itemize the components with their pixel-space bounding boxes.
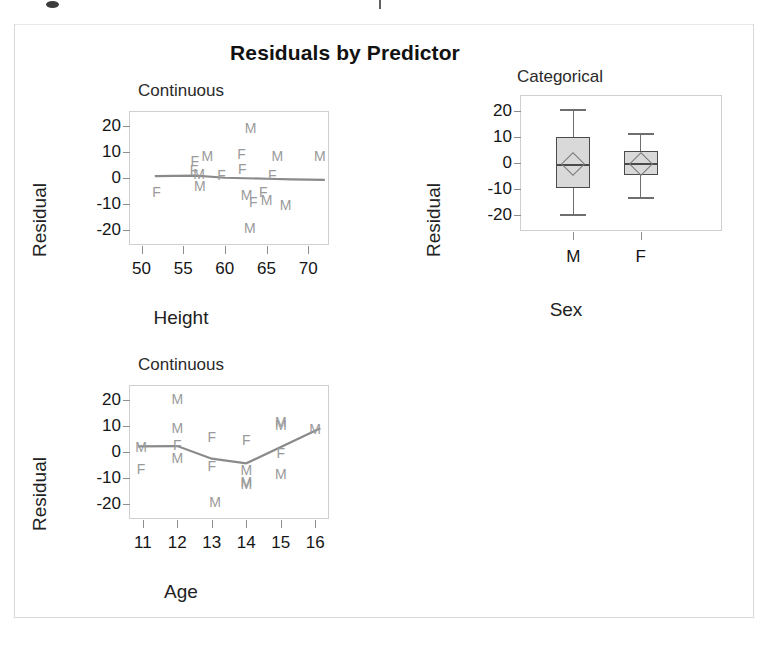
y-tick-label-4: -20: [474, 205, 512, 225]
box-whisker-cap-low-F: [628, 197, 654, 199]
y-tick-label-3: -10: [474, 179, 512, 199]
data-point-6: F: [217, 168, 226, 182]
data-point-11: F: [249, 195, 258, 209]
y-tick-mark-0: [514, 111, 521, 112]
scan-artifact-mark: [46, 1, 59, 8]
y-tick-mark-3: [514, 189, 521, 190]
data-point-6: F: [207, 430, 216, 444]
data-point-5: M: [171, 451, 183, 465]
y-tick-mark-1: [514, 137, 521, 138]
data-point-17: M: [309, 422, 321, 436]
data-point-14: F: [268, 168, 277, 182]
data-point-8: F: [238, 162, 247, 176]
data-point-9: F: [242, 433, 251, 447]
box-whisker-cap-high-F: [628, 133, 654, 135]
data-point-12: M: [240, 477, 252, 491]
y-tick-label-1: 10: [474, 127, 512, 147]
y-tick-label-2: 0: [474, 153, 512, 173]
panel-height-xlabel: Height: [21, 307, 341, 329]
data-point-15: F: [276, 446, 285, 460]
panel-age-xlabel: Age: [21, 581, 341, 603]
data-point-5: M: [201, 149, 213, 163]
panel-age: Continuous Residual 20100-10-20111213141…: [21, 355, 341, 620]
y-tick-mark-2: [514, 163, 521, 164]
data-point-7: F: [237, 147, 246, 161]
panel-sex: Categorical Residual 20100-10-20MF Sex: [415, 67, 745, 342]
data-point-15: M: [261, 193, 273, 207]
data-point-7: F: [207, 459, 216, 473]
box-category-label-F: F: [635, 247, 645, 267]
data-point-8: M: [209, 495, 221, 509]
data-point-0: M: [135, 440, 147, 454]
x-tick-mark-0: [573, 232, 574, 240]
box-whisker-cap-low-M: [560, 214, 586, 216]
data-point-0: F: [152, 185, 161, 199]
panel-sex-plot-area: [520, 95, 722, 231]
data-point-16: M: [271, 149, 283, 163]
x-tick-mark-1: [641, 232, 642, 240]
data-point-2: M: [171, 392, 183, 406]
data-point-4: M: [194, 179, 206, 193]
panel-sex-title: Categorical: [415, 67, 705, 87]
figure-frame: Residuals by Predictor Continuous Residu…: [14, 24, 754, 618]
data-point-3: M: [171, 421, 183, 435]
panel-height: Continuous Residual 20100-10-20505560657…: [21, 81, 341, 341]
data-point-9: M: [245, 121, 257, 135]
y-tick-label-0: 20: [474, 101, 512, 121]
data-point-14: M: [275, 418, 287, 432]
data-point-1: F: [137, 462, 146, 476]
page-title: Residuals by Predictor: [15, 41, 753, 65]
data-point-12: M: [244, 221, 256, 235]
panel-sex-xlabel: Sex: [401, 299, 731, 321]
data-point-17: M: [280, 198, 292, 212]
box-category-label-M: M: [566, 247, 580, 267]
y-tick-mark-4: [514, 215, 521, 216]
panel-sex-ylabel: Residual: [423, 183, 445, 257]
data-point-18: M: [314, 149, 326, 163]
box-whisker-cap-high-M: [560, 109, 586, 111]
fit-line: [21, 81, 341, 341]
scan-artifact-tick: [379, 0, 381, 9]
data-point-16: M: [275, 467, 287, 481]
